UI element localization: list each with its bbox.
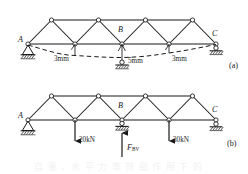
- node-label-c-panel-b: C: [212, 106, 217, 114]
- settlement-label-right: 3mm: [172, 56, 187, 63]
- support-b-roller-panel-a: [115, 60, 129, 69]
- load-label-30kn: 30kN: [173, 137, 189, 144]
- reaction-subscript: BV: [132, 146, 139, 152]
- support-c-roller-panel-a: [210, 46, 224, 55]
- support-c-roller-panel-b: [210, 122, 224, 131]
- support-a-pin-panel-b: [21, 121, 36, 135]
- truss-figure: [0, 0, 248, 174]
- support-b-roller-panel-b: [115, 121, 129, 130]
- load-label-20kn: 20kN: [79, 137, 95, 144]
- support-a-pin-panel-a: [21, 45, 36, 59]
- node-label-c-panel-a: C: [212, 30, 217, 38]
- node-label-a-panel-b: A: [18, 112, 23, 120]
- node-label-a-panel-a: A: [18, 36, 23, 44]
- panel-caption-a: (a): [229, 62, 238, 70]
- settlement-marker-left: [71, 44, 75, 56]
- ghost-text: 自 重 、水 平 力 等 荷 载 作 用 下 的: [34, 160, 203, 173]
- reaction-label-fbv: FBV: [127, 144, 139, 152]
- settlement-label-mid: 5mm: [128, 58, 143, 65]
- settlement-label-left: 3mm: [54, 56, 69, 63]
- node-label-b-panel-a: B: [118, 26, 123, 34]
- node-label-b-panel-b: B: [118, 102, 123, 110]
- panel-caption-b: (b): [227, 140, 237, 148]
